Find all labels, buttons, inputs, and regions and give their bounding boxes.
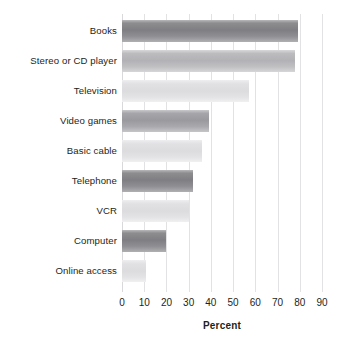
bar: [122, 170, 193, 192]
bar: [122, 140, 202, 162]
category-label: Online access: [0, 260, 117, 290]
x-axis-title: Percent: [122, 320, 322, 331]
category-label: Video games: [0, 110, 117, 140]
bar-row: [122, 50, 322, 80]
bar-row: [122, 200, 322, 230]
bar-row: [122, 20, 322, 50]
bar-series: [122, 20, 322, 290]
bar: [122, 50, 295, 72]
category-label: Computer: [0, 230, 117, 260]
bar-row: [122, 170, 322, 200]
bar: [122, 110, 209, 132]
category-label: VCR: [0, 200, 117, 230]
bar: [122, 20, 298, 42]
category-label: Telephone: [0, 170, 117, 200]
category-label: Basic cable: [0, 140, 117, 170]
bar: [122, 260, 146, 282]
x-tick-label: 90: [316, 297, 327, 308]
x-tick-label: 30: [183, 297, 194, 308]
plot-area: [122, 14, 322, 292]
x-tick-label: 40: [205, 297, 216, 308]
x-tick-label: 70: [272, 297, 283, 308]
bar-row: [122, 80, 322, 110]
bar-row: [122, 110, 322, 140]
bar-row: [122, 230, 322, 260]
bar: [122, 230, 166, 252]
category-label: Books: [0, 20, 117, 50]
bar-chart: Books Stereo or CD player Television Vid…: [0, 0, 343, 343]
x-tick-label: 20: [161, 297, 172, 308]
category-label-column: Books Stereo or CD player Television Vid…: [0, 20, 117, 290]
bar-row: [122, 260, 322, 290]
x-tick-label: 50: [228, 297, 239, 308]
x-tick-label: 0: [119, 297, 125, 308]
x-tick-label: 60: [250, 297, 261, 308]
x-axis-ticks: 0102030405060708090: [122, 297, 322, 313]
category-label: Stereo or CD player: [0, 50, 117, 80]
bar: [122, 200, 189, 222]
category-label: Television: [0, 80, 117, 110]
x-tick-label: 80: [294, 297, 305, 308]
gridline-90: [322, 14, 323, 292]
x-tick-label: 10: [139, 297, 150, 308]
bar-row: [122, 140, 322, 170]
bar: [122, 80, 249, 102]
